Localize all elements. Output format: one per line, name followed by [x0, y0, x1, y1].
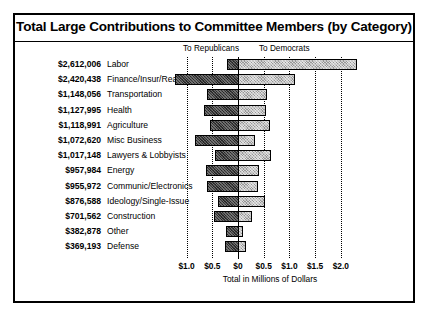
- bar-democrat: [238, 135, 255, 146]
- chart-frame: Total Large Contributions to Committee M…: [13, 13, 415, 303]
- bar-democrat: [238, 120, 270, 131]
- row-category-label: Lawyers & Lobbyists: [107, 148, 186, 163]
- bar-democrat: [238, 165, 259, 176]
- row-amount: $2,612,006: [23, 57, 101, 72]
- bar-democrat: [238, 196, 265, 207]
- title-divider: [15, 41, 413, 42]
- row-amount: $876,588: [23, 194, 101, 209]
- chart-row: $2,420,438Finance/Insur/Real Est: [15, 72, 413, 87]
- chart-row: $957,984Energy: [15, 163, 413, 178]
- row-category-label: Agriculture: [107, 118, 148, 133]
- row-category-label: Other: [107, 224, 129, 239]
- bar-republican: [215, 150, 239, 161]
- row-category-label: Health: [107, 103, 132, 118]
- chart-row: $369,193Defense: [15, 239, 413, 254]
- row-amount: $1,017,148: [23, 148, 101, 163]
- row-category-label: Misc Business: [107, 133, 162, 148]
- row-amount: $1,118,991: [23, 118, 101, 133]
- row-amount: $369,193: [23, 239, 101, 254]
- x-axis-ticks: $1.0$0.5$0$0.5$1.0$1.5$2.0: [15, 261, 413, 273]
- tick-label: $0.5: [256, 261, 272, 271]
- bar-democrat: [238, 89, 267, 100]
- bar-republican: [225, 241, 239, 252]
- bar-republican: [207, 181, 239, 192]
- tick-label: $0.5: [204, 261, 220, 271]
- row-category-label: Construction: [107, 209, 155, 224]
- plot-area: $2,612,006Labor$2,420,438Finance/Insur/R…: [15, 57, 413, 259]
- tick-label: $0: [233, 261, 242, 271]
- bar-republican: [218, 196, 239, 207]
- bar-democrat: [238, 181, 258, 192]
- tick-label: $2.0: [333, 261, 349, 271]
- chart-row: $2,612,006Labor: [15, 57, 413, 72]
- bar-republican: [206, 165, 239, 176]
- row-amount: $957,984: [23, 163, 101, 178]
- row-category-label: Energy: [107, 163, 134, 178]
- bar-republican: [214, 211, 239, 222]
- row-category-label: Ideology/Single-Issue: [107, 194, 189, 209]
- bar-republican: [210, 120, 239, 131]
- bar-democrat: [238, 211, 252, 222]
- bar-democrat: [238, 59, 357, 70]
- direction-label-republicans: To Republicans: [183, 44, 239, 53]
- bar-republican: [175, 74, 239, 85]
- chart-title: Total Large Contributions to Committee M…: [15, 19, 413, 34]
- bar-republican: [195, 135, 239, 146]
- bar-democrat: [238, 150, 271, 161]
- bar-democrat: [238, 241, 246, 252]
- tick-label: $1.0: [178, 261, 194, 271]
- chart-row: $1,148,056Transportation: [15, 87, 413, 102]
- row-category-label: Communic/Electronics: [107, 179, 192, 194]
- bar-republican: [226, 226, 239, 237]
- direction-label-democrats: To Democrats: [259, 44, 310, 53]
- row-category-label: Defense: [107, 239, 139, 254]
- bar-democrat: [238, 105, 266, 116]
- chart-row: $1,127,995Health: [15, 103, 413, 118]
- row-amount: $1,072,620: [23, 133, 101, 148]
- tick-label: $1.5: [307, 261, 323, 271]
- tick-label: $1.0: [281, 261, 297, 271]
- chart-row: $955,972Communic/Electronics: [15, 179, 413, 194]
- chart-row: $701,562Construction: [15, 209, 413, 224]
- bar-democrat: [238, 74, 295, 85]
- bar-republican: [207, 89, 239, 100]
- row-amount: $1,127,995: [23, 103, 101, 118]
- row-category-label: Transportation: [107, 87, 162, 102]
- x-axis-title: Total in Millions of Dollars: [15, 274, 413, 284]
- chart-row: $1,017,148Lawyers & Lobbyists: [15, 148, 413, 163]
- chart-row: $382,878Other: [15, 224, 413, 239]
- row-amount: $2,420,438: [23, 72, 101, 87]
- chart-row: $1,118,991Agriculture: [15, 118, 413, 133]
- bar-republican: [204, 105, 239, 116]
- chart-row: $876,588Ideology/Single-Issue: [15, 194, 413, 209]
- row-amount: $701,562: [23, 209, 101, 224]
- row-amount: $382,878: [23, 224, 101, 239]
- chart-row: $1,072,620Misc Business: [15, 133, 413, 148]
- row-amount: $1,148,056: [23, 87, 101, 102]
- bar-democrat: [238, 226, 243, 237]
- row-category-label: Labor: [107, 57, 129, 72]
- row-amount: $955,972: [23, 179, 101, 194]
- x-axis-title-text: Total in Millions of Dollars: [223, 274, 317, 284]
